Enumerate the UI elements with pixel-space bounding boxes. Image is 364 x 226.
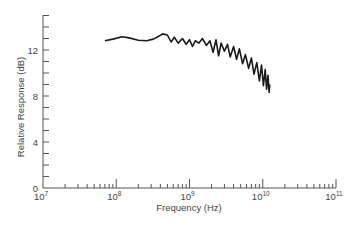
x-tick-label: 108 xyxy=(107,190,122,202)
frequency-response-chart: 04812 10710810910101011 Frequency (Hz) R… xyxy=(0,0,364,226)
x-tick-label: 109 xyxy=(180,190,195,202)
x-ticks xyxy=(65,179,336,188)
x-tick-label: 1011 xyxy=(325,190,343,202)
x-axis-title: Frequency (Hz) xyxy=(156,202,221,213)
x-tick-label: 1010 xyxy=(252,190,270,202)
y-tick-label: 12 xyxy=(27,45,38,56)
x-tick-labels: 10710810910101011 xyxy=(34,190,343,202)
y-ticks xyxy=(43,16,49,177)
series-layer xyxy=(105,34,270,93)
y-tick-labels: 04812 xyxy=(27,45,38,194)
x-tick-label: 107 xyxy=(34,190,49,202)
y-axis-title: Relative Response (dB) xyxy=(15,57,26,157)
y-tick-label: 8 xyxy=(33,91,38,102)
y-tick-label: 4 xyxy=(33,137,38,148)
response-curve xyxy=(105,34,270,93)
